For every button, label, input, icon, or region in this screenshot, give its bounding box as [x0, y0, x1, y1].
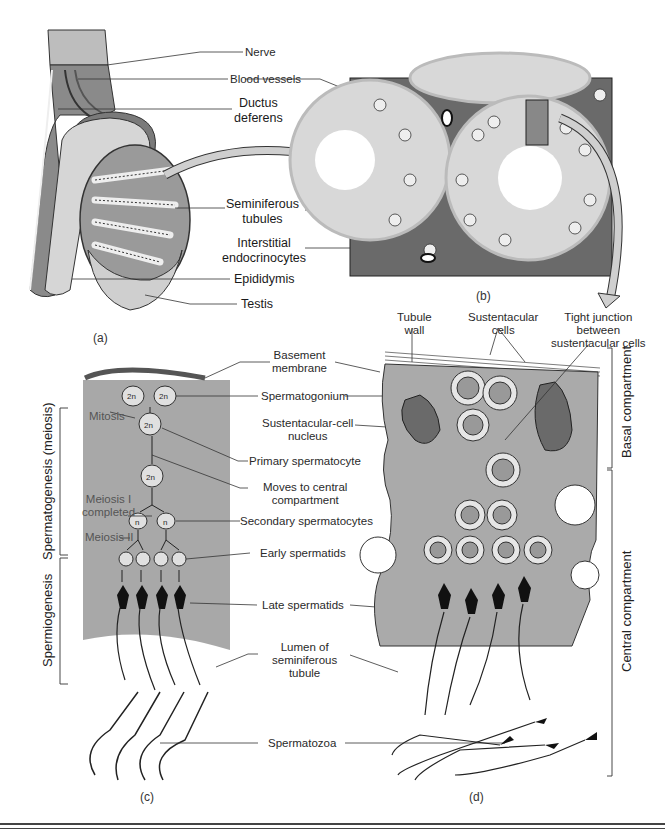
- label-spermatogonium: Spermatogonium: [261, 390, 349, 403]
- label-early-spermatids: Early spermatids: [260, 547, 346, 560]
- ploidy-2n: 2n: [146, 471, 155, 484]
- caption-d: (d): [469, 790, 484, 804]
- label-interstitial-endocrinocytes: Interstitial endocrinocytes: [222, 236, 306, 266]
- label-nerve: Nerve: [245, 46, 276, 59]
- phase-brackets: [60, 408, 68, 684]
- ploidy-n: n: [135, 516, 139, 529]
- label-basal-compartment: Basal compartment: [619, 346, 634, 458]
- label-spermatozoa: Spermatozoa: [268, 737, 336, 750]
- label-basement-membrane: Basement membrane: [272, 349, 327, 375]
- label-sustentacular-cells: Sustentacular cells: [468, 311, 538, 337]
- label-seminiferous-tubules: Seminiferous tubules: [226, 197, 299, 227]
- label-tubule-wall: Tubule wall: [397, 311, 432, 337]
- label-meiosis-ii: Meiosis II: [85, 531, 134, 544]
- ploidy-2n: 2n: [144, 419, 153, 432]
- label-central-compartment: Central compartment: [619, 551, 634, 672]
- caption-b: (b): [476, 289, 491, 303]
- label-meiosis-i: Meiosis I completed: [82, 493, 135, 519]
- label-primary-spermatocyte: Primary spermatocyte: [249, 455, 361, 468]
- caption-a: (a): [93, 331, 108, 345]
- label-spermatogenesis: Spermatogenesis (meiosis): [40, 402, 55, 560]
- label-moves-to-central: Moves to central compartment: [263, 481, 347, 507]
- ploidy-2n: 2n: [159, 390, 168, 403]
- label-lumen: Lumen of seminiferous tubule: [272, 641, 337, 680]
- ploidy-2n: 2n: [127, 390, 136, 403]
- spermatogenesis-schematic: [83, 370, 230, 780]
- label-secondary-spermatocytes: Secondary spermatocytes: [240, 515, 373, 528]
- label-epididymis: Epididymis: [234, 272, 294, 287]
- label-testis: Testis: [241, 297, 273, 312]
- tubule-wall-detail: [360, 352, 600, 780]
- bottom-rule: [0, 823, 665, 825]
- label-mitosis: Mitosis: [89, 410, 125, 423]
- label-late-spermatids: Late spermatids: [262, 599, 344, 612]
- bottom-rule-thin: [0, 828, 665, 829]
- label-sustentacular-cell-nucleus: Sustentacular-cell nucleus: [262, 417, 353, 443]
- caption-c: (c): [140, 790, 154, 804]
- compartment-brackets: [607, 348, 612, 776]
- label-ductus-deferens: Ductus deferens: [234, 96, 283, 126]
- label-spermiogenesis: Spermiogenesis: [40, 574, 55, 667]
- ploidy-n: n: [163, 516, 167, 529]
- tubule-cross-section: [290, 53, 612, 276]
- label-tight-junction: Tight junction between sustentacular cel…: [551, 311, 646, 350]
- label-blood-vessels: Blood vessels: [230, 73, 301, 86]
